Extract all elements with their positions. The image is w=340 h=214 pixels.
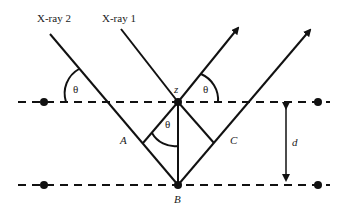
theta-arc-inner	[152, 133, 178, 146]
incident-xray-2	[50, 34, 178, 185]
label-theta-inner: θ	[165, 118, 170, 130]
segment-zC	[178, 102, 214, 143]
label-xray-2: X-ray 2	[37, 12, 71, 24]
label-A: A	[119, 134, 127, 146]
incident-xray-1	[121, 29, 178, 102]
label-d: d	[292, 136, 298, 148]
label-xray-1: X-ray 1	[102, 12, 136, 24]
label-C: C	[230, 134, 238, 146]
label-B: B	[174, 193, 181, 205]
label-theta-reflected: θ	[203, 83, 208, 95]
atom-bottom-left	[40, 181, 48, 189]
label-theta-incident: θ	[73, 83, 78, 95]
segment-zA	[143, 102, 178, 143]
atom-top-left	[40, 98, 48, 106]
atom-bottom-right	[314, 181, 322, 189]
reflected-xray-2	[178, 30, 310, 185]
atom-top-right	[314, 98, 322, 106]
label-z: z	[173, 83, 179, 95]
bragg-diagram: X-ray 2 X-ray 1 θ θ θ z A C B d	[0, 0, 340, 214]
